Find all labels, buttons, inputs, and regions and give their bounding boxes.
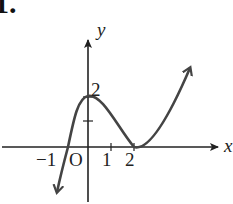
x-axis-label: x <box>224 136 232 155</box>
graph-figure: 1. y x O −1 1 2 2 <box>0 0 233 204</box>
x-tick-label-1: 1 <box>102 150 112 169</box>
origin-label: O <box>69 150 83 169</box>
y-axis-label: y <box>97 20 105 39</box>
function-curve <box>68 68 190 147</box>
x-tick-label-neg1: −1 <box>36 150 56 169</box>
function-curve-left-tail <box>57 147 68 192</box>
graph-canvas <box>0 0 233 204</box>
y-tick-label-2: 2 <box>91 80 101 99</box>
x-tick-label-2: 2 <box>125 150 135 169</box>
